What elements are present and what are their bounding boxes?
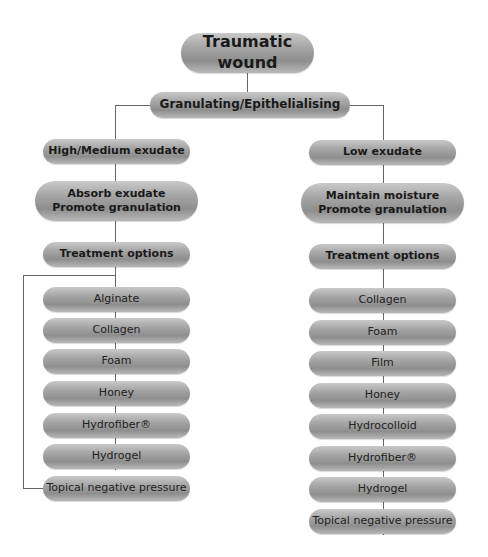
- node-left-option: Alginate: [43, 287, 190, 312]
- option-label: Hydrogel: [92, 449, 142, 463]
- option-label: Topical negative pressure: [312, 514, 452, 528]
- connector-stage-left-h: [115, 105, 150, 106]
- option-label: Honey: [365, 388, 400, 402]
- node-right-goal: Maintain moisture Promote granulation: [301, 183, 464, 223]
- node-root: Traumatic wound: [181, 33, 314, 73]
- connector-root-stage: [247, 72, 248, 94]
- option-label: Alginate: [94, 292, 139, 306]
- connector-stage-right-h: [350, 105, 383, 106]
- node-right-option: Foam: [309, 320, 456, 345]
- node-left-goal-line2: Promote granulation: [52, 201, 181, 215]
- node-right-option: Hydrogel: [309, 477, 456, 502]
- node-right-exudate: Low exudate: [309, 140, 456, 165]
- connector-left-bracket-top: [23, 275, 116, 276]
- node-right-treatment-header-label: Treatment options: [325, 249, 439, 263]
- node-right-option: Hydrofiber®: [309, 446, 456, 471]
- node-right-goal-line1: Maintain moisture: [318, 189, 447, 203]
- node-left-treatment-header-label: Treatment options: [59, 247, 173, 261]
- node-left-option: Collagen: [43, 318, 190, 343]
- node-stage-label: Granulating/Epithelialising: [160, 97, 341, 113]
- option-label: Collagen: [93, 323, 141, 337]
- node-stage: Granulating/Epithelialising: [150, 92, 350, 118]
- option-label: Foam: [367, 325, 397, 339]
- node-left-goal: Absorb exudate Promote granulation: [35, 181, 198, 221]
- node-root-label: Traumatic wound: [181, 32, 314, 74]
- node-right-goal-line2: Promote granulation: [318, 203, 447, 217]
- option-label: Collagen: [359, 293, 407, 307]
- option-label: Honey: [99, 386, 134, 400]
- option-label: Film: [371, 356, 393, 370]
- node-left-option: Hydrogel: [43, 444, 190, 469]
- node-right-exudate-label: Low exudate: [343, 145, 422, 159]
- node-right-treatment-header: Treatment options: [309, 244, 456, 269]
- node-right-option: Collagen: [309, 288, 456, 313]
- option-label: Hydrogel: [358, 482, 408, 496]
- option-label: Topical negative pressure: [46, 481, 186, 495]
- connector-stage-left-v: [115, 105, 116, 141]
- connector-left-bracket-bottom: [23, 488, 43, 489]
- option-label: Hydrocolloid: [348, 419, 416, 433]
- node-left-option: Hydrofiber®: [43, 413, 190, 438]
- node-left-exudate: High/Medium exudate: [43, 139, 190, 164]
- node-right-option: Topical negative pressure: [309, 509, 456, 534]
- node-left-option: Honey: [43, 381, 190, 406]
- connector-stage-right-v: [383, 105, 384, 143]
- node-left-option: Topical negative pressure: [43, 476, 190, 501]
- connector-left-bracket-v: [23, 275, 24, 488]
- node-right-option: Honey: [309, 383, 456, 408]
- option-label: Hydrofiber®: [82, 418, 151, 432]
- node-right-option: Film: [309, 351, 456, 376]
- node-left-exudate-label: High/Medium exudate: [48, 144, 184, 158]
- node-left-option: Foam: [43, 349, 190, 374]
- node-left-treatment-header: Treatment options: [43, 242, 190, 267]
- node-right-option: Hydrocolloid: [309, 414, 456, 439]
- node-left-goal-line1: Absorb exudate: [52, 187, 181, 201]
- option-label: Foam: [101, 354, 131, 368]
- option-label: Hydrofiber®: [348, 451, 417, 465]
